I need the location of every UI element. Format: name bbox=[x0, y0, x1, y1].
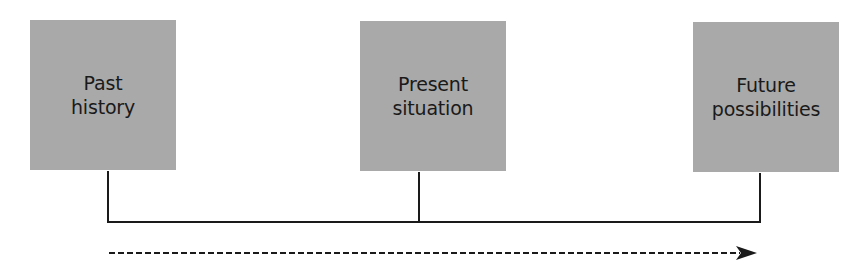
dashed-arrow bbox=[109, 246, 757, 260]
connector-lines bbox=[0, 0, 866, 269]
